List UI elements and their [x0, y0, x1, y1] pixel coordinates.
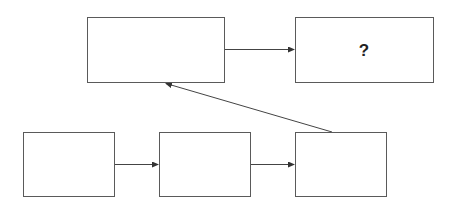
- node-c: [24, 133, 115, 197]
- flow-diagram: ?: [0, 0, 456, 212]
- node-e: [296, 133, 387, 197]
- node-a: [88, 18, 225, 83]
- node-b-label: ?: [359, 41, 369, 60]
- edge-e-to-a: [166, 84, 332, 133]
- node-d: [160, 133, 251, 197]
